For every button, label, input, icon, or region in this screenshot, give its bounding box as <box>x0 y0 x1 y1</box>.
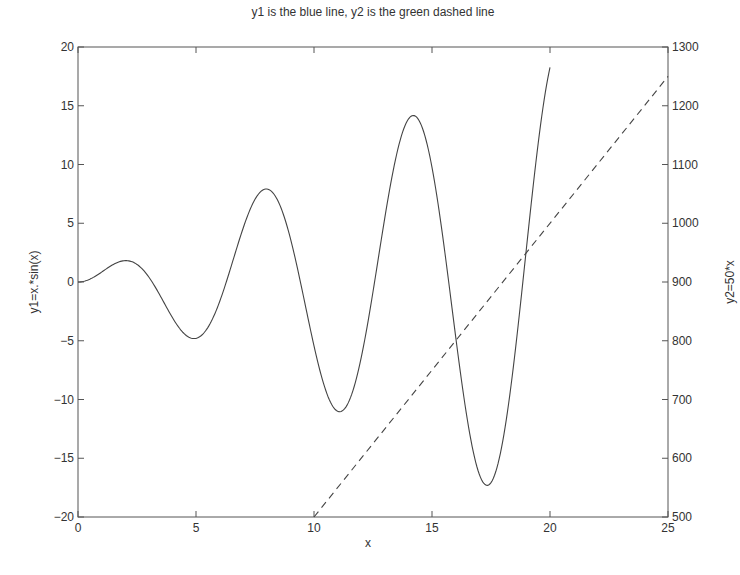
y-right-tick-label: 1300 <box>672 40 699 54</box>
y-right-tick-label: 900 <box>672 275 692 289</box>
y-tick-label: 20 <box>61 40 75 54</box>
y-axis-left-label: y1=x.*sin(x) <box>27 250 41 313</box>
y-tick-label: 15 <box>61 99 75 113</box>
x-axis-label: x <box>365 536 371 550</box>
y-right-tick-label: 1200 <box>672 99 699 113</box>
x-tick-label: 15 <box>425 521 439 535</box>
plot-area <box>78 47 668 517</box>
y-tick-label: −20 <box>54 510 75 524</box>
x-tick-label: 10 <box>307 521 321 535</box>
y-tick-label: 0 <box>67 275 74 289</box>
series-y1-line <box>78 67 550 485</box>
x-tick-label: 5 <box>193 521 200 535</box>
chart-title: y1 is the blue line, y2 is the green das… <box>252 5 495 19</box>
y-right-tick-label: 600 <box>672 451 692 465</box>
y-tick-label: −5 <box>60 334 74 348</box>
x-tick-label: 0 <box>75 521 82 535</box>
y-right-tick-label: 500 <box>672 510 692 524</box>
x-axis-ticks: 0510152025 <box>75 47 675 535</box>
x-tick-label: 20 <box>543 521 557 535</box>
y-right-tick-label: 800 <box>672 334 692 348</box>
y-tick-label: 10 <box>61 158 75 172</box>
y-right-tick-label: 1000 <box>672 216 699 230</box>
y-tick-label: −10 <box>54 393 75 407</box>
chart: y1 is the blue line, y2 is the green das… <box>0 0 740 575</box>
y-right-tick-label: 700 <box>672 393 692 407</box>
y-tick-label: 5 <box>67 216 74 230</box>
series-y2-dashed-line <box>314 76 668 517</box>
y-axis-right-label: y2=50*x <box>723 260 737 304</box>
y-right-tick-label: 1100 <box>672 158 698 172</box>
y-tick-label: −15 <box>54 451 75 465</box>
